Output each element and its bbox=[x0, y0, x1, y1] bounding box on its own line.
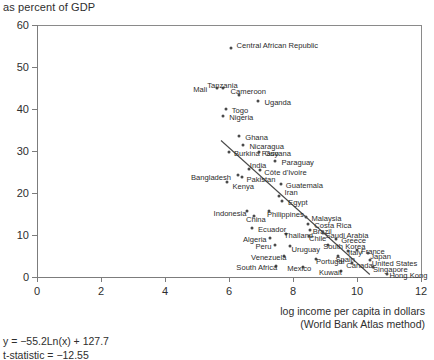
scatter-point-label: Kenya bbox=[232, 183, 254, 191]
regression-stats: y = −55.2Ln(x) + 127.7 t-statistic = −12… bbox=[3, 334, 109, 360]
scatter-point-label: Canada bbox=[346, 262, 373, 270]
scatter-point-label: Philippines bbox=[267, 211, 304, 219]
scatter-point-label: Egypt bbox=[288, 199, 307, 207]
scatter-point-label: Bangladesh bbox=[191, 174, 231, 182]
scatter-point bbox=[251, 227, 254, 230]
scatter-point bbox=[236, 174, 239, 177]
scatter-point-label: Peru bbox=[255, 243, 271, 251]
scatter-point bbox=[259, 169, 262, 172]
scatter-point-label: Guyana bbox=[264, 150, 291, 158]
x-axis-caption: log income per capita in dollars (World … bbox=[255, 305, 425, 331]
scatter-point-label: Venezuela bbox=[251, 254, 286, 262]
chart-root: as percent of GDP 0102030405060 02468101… bbox=[0, 0, 434, 360]
scatter-point-label: Kuwait bbox=[319, 269, 342, 277]
x-axis-caption-line1: log income per capita in dollars bbox=[255, 305, 425, 318]
scatter-point bbox=[268, 236, 271, 239]
scatter-point bbox=[229, 47, 232, 50]
scatter-point-label: Uruguay bbox=[291, 246, 320, 254]
scatter-point-label: Mali bbox=[193, 86, 207, 94]
scatter-point-label: Nigeria bbox=[229, 114, 253, 122]
scatter-point-label: Mexico bbox=[287, 265, 311, 273]
scatter-point bbox=[356, 249, 359, 252]
scatter-point-label: Iran bbox=[285, 189, 298, 197]
scatter-point bbox=[305, 215, 308, 218]
scatter-point bbox=[274, 160, 277, 163]
scatter-point bbox=[307, 223, 310, 226]
scatter-point bbox=[279, 182, 282, 185]
scatter-point-label: Indonesia bbox=[214, 210, 247, 218]
scatter-point bbox=[226, 181, 229, 184]
scatter-point bbox=[228, 150, 231, 153]
scatter-point-label: Uganda bbox=[264, 99, 291, 107]
scatter-point-label: South Africa bbox=[236, 264, 277, 272]
scatter-point-label: Ecuador bbox=[258, 226, 286, 234]
scatter-point-label: China bbox=[246, 216, 266, 224]
scatter-point bbox=[242, 144, 245, 147]
scatter-point bbox=[281, 199, 284, 202]
scatter-point-label: Hong Kong bbox=[389, 272, 427, 280]
x-axis-caption-line2: (World Bank Atlas method) bbox=[255, 318, 425, 331]
scatter-point bbox=[222, 114, 225, 117]
scatter-point bbox=[238, 134, 241, 137]
scatter-point bbox=[224, 108, 227, 111]
scatter-point bbox=[241, 176, 244, 179]
scatter-point-label: Cameroon bbox=[231, 88, 266, 96]
scatter-point bbox=[257, 99, 260, 102]
regression-tstatistic: t-statistic = −12.55 bbox=[3, 348, 109, 360]
scatter-point bbox=[274, 244, 277, 247]
scatter-point-label: Central African Republic bbox=[237, 42, 318, 50]
scatter-point bbox=[335, 238, 338, 241]
scatter-point bbox=[258, 150, 261, 153]
scatter-point-label: Paraguay bbox=[281, 159, 314, 167]
regression-equation: y = −55.2Ln(x) + 127.7 bbox=[3, 334, 109, 348]
scatter-point-label: Ghana bbox=[245, 134, 268, 142]
scatter-point bbox=[277, 194, 280, 197]
